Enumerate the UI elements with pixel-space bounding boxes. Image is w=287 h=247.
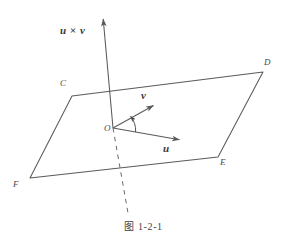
label-vector-v: v (141, 90, 146, 101)
label-vertex-e: E (220, 158, 226, 167)
label-origin-o: O (104, 124, 111, 133)
figure-container: u × v v u O C D E F 图 1-2-1 (0, 0, 287, 247)
label-vector-u: u (163, 143, 169, 154)
label-vertex-f: F (13, 180, 19, 189)
angle-arc-u-to-v (131, 116, 136, 132)
vector-diagram-canvas (0, 0, 287, 247)
vector-v-line (113, 106, 154, 129)
label-vertex-d: D (264, 58, 271, 67)
label-vertex-c: C (60, 79, 66, 88)
label-cross-product: u × v (60, 25, 85, 36)
figure-caption: 图 1-2-1 (0, 221, 287, 233)
vector-cross-product-line (103, 19, 113, 128)
vector-u-line (113, 128, 180, 140)
normal-axis-dashed-extension (113, 128, 128, 213)
